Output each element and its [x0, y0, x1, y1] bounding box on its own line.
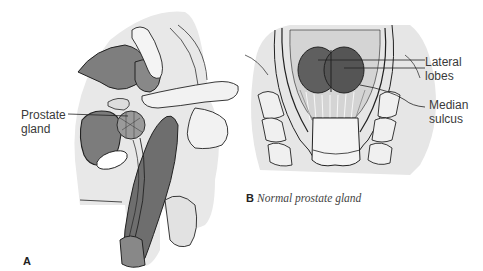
panel-b-posterior-view: Lateral lobes Median sulcus B Normal pro…: [240, 0, 483, 220]
median-label-line1: Median: [429, 98, 468, 112]
lateral-label-line1: Lateral: [425, 55, 462, 69]
panel-a-letter: A: [23, 255, 31, 267]
prostate-label-line1: Prostate: [21, 108, 66, 122]
panel-b-caption-text: Normal prostate gland: [257, 192, 361, 204]
lateral-lobes-label: Lateral lobes: [425, 55, 462, 83]
median-sulcus-label: Median sulcus: [429, 98, 468, 126]
prostate-gland-label: Prostate gland: [21, 108, 66, 136]
median-label-line2: sulcus: [429, 112, 468, 126]
panel-a-sagittal-view: Prostate gland A: [0, 0, 250, 271]
panel-b-caption: B Normal prostate gland: [246, 192, 361, 204]
lateral-label-line2: lobes: [425, 69, 462, 83]
panel-b-letter: B: [246, 192, 254, 204]
prostate-label-line2: gland: [21, 122, 66, 136]
